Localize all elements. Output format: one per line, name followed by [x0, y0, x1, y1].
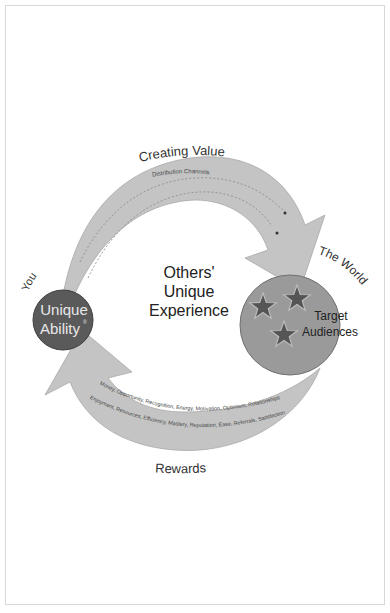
center-line1: Others' — [163, 264, 214, 281]
center-line2: Unique — [164, 283, 215, 300]
unique-ability-node: Unique Ability ® — [33, 290, 93, 350]
target-audiences-node: Target Audiences — [240, 275, 358, 375]
the-world-label: The World — [317, 243, 371, 287]
unique-ability-line1: Unique — [40, 301, 88, 318]
center-line3: Experience — [149, 302, 229, 319]
target-audiences-line2: Audiences — [302, 325, 358, 339]
center-label: Others' Unique Experience — [149, 264, 229, 319]
registered-mark: ® — [83, 319, 87, 325]
target-audiences-line1: Target — [314, 309, 348, 323]
value-cycle-diagram: Unique Ability ® Target Audiences Others… — [0, 0, 390, 613]
rewards-label: Rewards — [155, 460, 207, 476]
you-label: You — [19, 270, 39, 293]
unique-ability-line2: Ability — [40, 320, 81, 337]
